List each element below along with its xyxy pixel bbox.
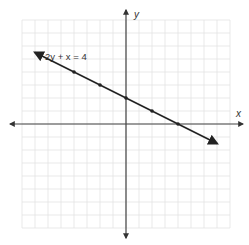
axes [10, 10, 243, 238]
data-point [150, 109, 154, 113]
x-axis-label: x [235, 108, 242, 119]
data-point [124, 96, 128, 100]
y-axis-label: y [133, 9, 140, 20]
coordinate-plane: x y 2y + x = 4 [0, 0, 249, 245]
data-point [72, 70, 76, 74]
data-point [98, 83, 102, 87]
data-point [176, 122, 180, 126]
